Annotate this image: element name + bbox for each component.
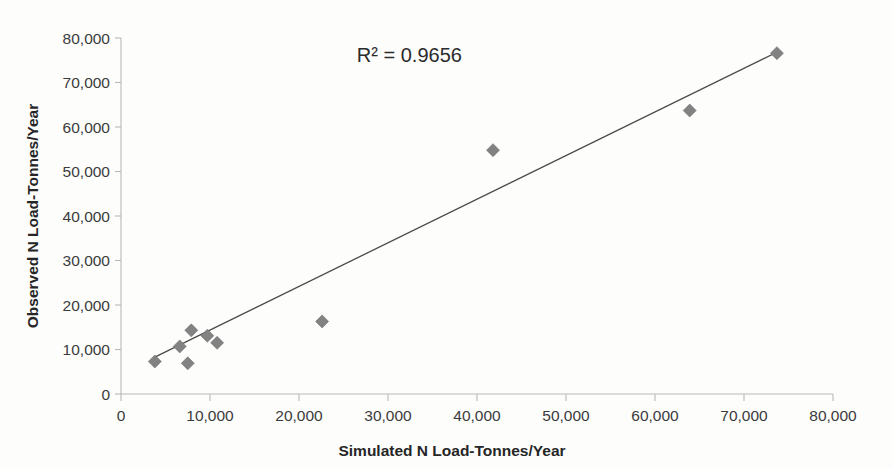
- x-tick-label: 0: [117, 407, 126, 424]
- y-tick-label-group: 010,00020,00030,00040,00050,00060,00070,…: [63, 30, 111, 403]
- y-tick-label: 40,000: [63, 208, 111, 225]
- y-tick-label: 0: [101, 386, 110, 403]
- scatter-chart: 010,00020,00030,00040,00050,00060,00070,…: [0, 0, 892, 469]
- data-point-marker: [770, 47, 783, 60]
- x-tick-label: 50,000: [542, 407, 590, 424]
- data-point-marker: [683, 104, 696, 117]
- data-point-marker: [316, 315, 329, 328]
- data-point-marker: [185, 324, 198, 337]
- y-tick-label: 60,000: [63, 119, 111, 136]
- data-point-marker: [173, 340, 186, 353]
- y-tick-label: 50,000: [63, 163, 111, 180]
- x-tick-label: 80,000: [809, 407, 857, 424]
- data-point-marker: [181, 357, 194, 370]
- x-tick-label: 40,000: [453, 407, 501, 424]
- y-tick-label: 80,000: [63, 30, 111, 47]
- y-tick-label: 70,000: [63, 74, 111, 91]
- x-axis-title: Simulated N Load-Tonnes/Year: [338, 442, 565, 459]
- x-tick-label: 20,000: [275, 407, 323, 424]
- y-tick-label: 10,000: [63, 341, 111, 358]
- x-tick-label: 30,000: [364, 407, 412, 424]
- tick-mark-group: [115, 38, 833, 401]
- x-tick-label: 70,000: [720, 407, 768, 424]
- x-tick-label: 10,000: [186, 407, 234, 424]
- data-point-marker: [201, 329, 214, 342]
- y-tick-label: 20,000: [63, 297, 111, 314]
- r-squared-annotation: R² = 0.9656: [357, 44, 462, 66]
- y-tick-label: 30,000: [63, 252, 111, 269]
- x-tick-label: 60,000: [631, 407, 679, 424]
- x-tick-label-group: 010,00020,00030,00040,00050,00060,00070,…: [117, 407, 857, 424]
- data-point-marker: [211, 336, 224, 349]
- y-axis-title: Observed N Load-Tonnes/Year: [24, 104, 41, 329]
- trend-line: [155, 52, 777, 357]
- data-point-marker: [487, 144, 500, 157]
- plot-area: 010,00020,00030,00040,00050,00060,00070,…: [0, 0, 892, 469]
- data-point-marker: [148, 355, 161, 368]
